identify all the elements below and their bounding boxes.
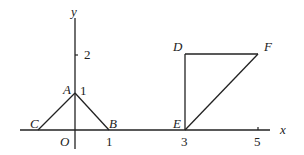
y-axis-label: y: [69, 4, 77, 19]
x-tick-label-5: 5: [254, 134, 261, 149]
diagram-svg: y x O 2 1 1 3 5 A B C D E F: [0, 0, 304, 155]
origin-label: O: [60, 134, 70, 149]
point-label-E: E: [172, 116, 181, 131]
segment-CA: [38, 93, 75, 130]
y-tick-label-2: 2: [84, 47, 91, 62]
point-label-D: D: [172, 39, 183, 54]
segment-EF: [185, 54, 258, 130]
point-label-F: F: [263, 39, 273, 54]
point-label-B: B: [109, 116, 117, 131]
point-label-A: A: [62, 82, 71, 97]
x-axis-label: x: [279, 122, 286, 137]
y-tick-label-1: 1: [80, 83, 87, 98]
point-label-C: C: [30, 116, 39, 131]
x-tick-label-3: 3: [181, 134, 188, 149]
coordinate-diagram: y x O 2 1 1 3 5 A B C D E F: [0, 0, 304, 155]
x-tick-label-1: 1: [106, 134, 113, 149]
segment-AB: [75, 93, 109, 130]
